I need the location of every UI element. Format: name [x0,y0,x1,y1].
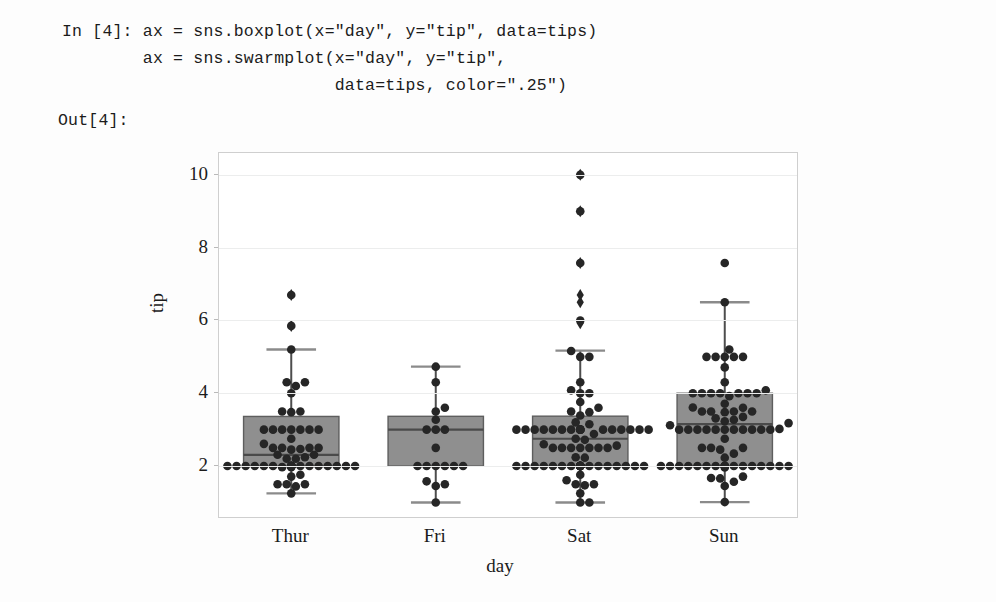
swarm-point [617,425,626,434]
swarm-point [296,445,305,454]
swarm-point [590,430,599,439]
swarm-point [730,407,739,416]
y-tick-mark [214,247,218,248]
swarm-point [292,382,301,391]
swarm-point [301,378,310,387]
swarm-point [260,425,269,434]
y-axis-label: tip [146,293,168,313]
x-axis-label: day [150,555,850,577]
y-tick-label: 10 [174,163,208,185]
swarm-point [431,444,440,453]
swarm-point [581,436,590,445]
swarm-point [716,445,725,454]
swarm-point [698,444,707,453]
swarm-point [301,453,310,462]
swarm-point [567,407,576,416]
swarm-point [576,411,585,420]
swarm-point [431,416,440,425]
swarm-point [576,498,585,507]
swarm-point [707,407,716,416]
swarm-point [576,259,585,268]
swarm-point [431,378,440,387]
swarm-point [562,476,571,485]
swarm-point [287,291,296,300]
gridline-y [219,466,797,467]
swarm-point [675,425,684,434]
swarm-point [314,444,323,453]
swarm-point [730,425,739,434]
swarm-point [287,434,296,443]
swarm-point [720,434,729,443]
swarm-point [702,425,711,434]
swarm-point [512,425,521,434]
swarm-point [278,407,287,416]
swarm-point [730,449,739,458]
plot-axes [218,152,798,518]
swarm-point [720,425,729,434]
swarm-point [748,407,757,416]
swarm-point [689,403,698,412]
swarm-point [530,425,539,434]
swarm-point [775,425,784,434]
swarm-point [521,425,530,434]
swarm-point [571,453,580,462]
swarm-point [594,444,603,453]
swarm-point [716,474,725,483]
swarm-point [644,425,653,434]
swarm-point [720,353,729,362]
swarm-point [282,480,291,489]
swarm-point [720,298,729,307]
swarm-point [730,477,739,486]
swarm-point [730,353,739,362]
swarm-group-sun [657,259,793,507]
swarm-point [585,353,594,362]
code-cell: In [4]: ax = sns.boxplot(x="day", y="tip… [0,0,996,134]
swarm-point [260,440,269,449]
swarm-point [441,480,450,489]
swarm-point [748,425,757,434]
code-line-3: data=tips, color=".25") [0,72,996,99]
notebook-page: In [4]: ax = sns.boxplot(x="day", y="tip… [0,0,996,602]
swarm-point [684,425,693,434]
swarm-point [287,322,296,331]
swarm-point [707,444,716,453]
swarm-point [441,404,450,413]
swarm-point [422,477,431,486]
swarm-point [603,444,612,453]
swarm-point [567,347,576,356]
swarm-point [720,363,729,372]
swarm-point [296,407,305,416]
swarm-point [599,425,608,434]
swarm-point [725,345,734,354]
y-tick-label: 2 [174,454,208,476]
swarm-point [278,444,287,453]
swarm-point [784,419,793,428]
x-tick-label-thur: Thur [272,525,309,547]
swarm-point [571,480,580,489]
swarm-point [635,425,644,434]
swarm-point [612,441,621,450]
swarm-point [549,425,558,434]
swarm-point [720,408,729,417]
gridline-y [219,175,797,176]
swarm-point [720,498,729,507]
swarm-point [576,398,585,407]
swarm-point [739,404,748,413]
swarm-point [296,425,305,434]
swarm-point [698,407,707,416]
swarm-point [287,472,296,481]
swarm-point [292,454,301,463]
swarm-point [739,472,748,481]
swarm-point [576,470,585,479]
x-tick-label-sun: Sun [709,525,739,547]
swarm-point [581,481,590,490]
swarm-point [576,207,585,216]
swarm-point [720,259,729,268]
swarm-point [558,444,567,453]
code-line-1: In [4]: ax = sns.boxplot(x="day", y="tip… [0,18,996,45]
gridline-y [219,320,797,321]
y-tick-mark [214,319,218,320]
swarm-point [711,425,720,434]
swarm-point [287,445,296,454]
swarm-point [278,463,287,472]
